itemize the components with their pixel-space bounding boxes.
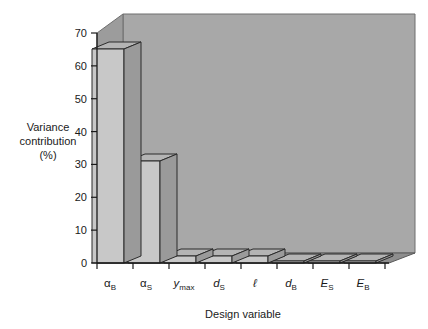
- x-tick-label-dB: dB: [285, 277, 297, 292]
- y-tick-label-40: 40: [75, 126, 87, 138]
- y-tick-label-50: 50: [75, 93, 87, 105]
- x-tick-label-alphaB-sub: B: [111, 283, 116, 292]
- variance-contribution-bar-chart: 0 10 20 30 40 50 60 70: [0, 0, 428, 329]
- x-tick-label-dS-sub: S: [220, 283, 225, 292]
- x-tick-label-alphaS-sub: S: [147, 283, 152, 292]
- chart-svg: 0 10 20 30 40 50 60 70: [0, 0, 428, 329]
- x-tick-label-l: ℓ: [252, 277, 257, 289]
- x-axis-title: Design variable: [205, 308, 281, 320]
- y-tick-label-30: 30: [75, 158, 87, 170]
- y-axis-title-line-1: Variance: [27, 121, 70, 133]
- chart-plot-area: 0 10 20 30 40 50 60 70: [75, 14, 415, 292]
- bar-alphaS-side: [160, 154, 177, 263]
- bar-alphaB-side: [124, 42, 141, 263]
- x-tick-label-alphaS: αS: [140, 277, 152, 292]
- x-axis-ticks: [97, 263, 385, 269]
- y-tick-label-70: 70: [75, 27, 87, 39]
- y-axis-tick-labels: 0 10 20 30 40 50 60 70: [75, 27, 87, 269]
- x-tick-label-ES: ES: [320, 277, 333, 292]
- x-tick-label-ymax-sub: max: [179, 283, 194, 292]
- y-tick-label-20: 20: [75, 191, 87, 203]
- y-tick-label-10: 10: [75, 224, 87, 236]
- x-tick-label-EB-sub: B: [364, 283, 369, 292]
- x-tick-label-alphaB: αB: [104, 277, 116, 292]
- bar-alphaB: [92, 42, 141, 263]
- y-tick-label-0: 0: [81, 257, 87, 269]
- x-tick-label-l-base: ℓ: [252, 277, 257, 289]
- y-tick-label-60: 60: [75, 60, 87, 72]
- x-axis-tick-labels: αB αS ymax dS ℓ dB ES EB: [104, 277, 370, 292]
- x-tick-label-ES-sub: S: [328, 283, 333, 292]
- x-tick-label-dB-sub: B: [292, 283, 297, 292]
- y-axis-title-line-3: (%): [39, 149, 56, 161]
- x-tick-label-dS: dS: [213, 277, 225, 292]
- y-axis-title: Variance contribution (%): [20, 121, 77, 161]
- x-tick-label-EB: EB: [356, 277, 369, 292]
- y-axis-title-line-2: contribution: [20, 135, 77, 147]
- x-tick-label-ymax: ymax: [173, 277, 195, 292]
